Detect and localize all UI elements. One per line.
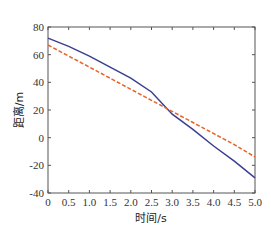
- x-tick-label: 2.5: [145, 196, 159, 208]
- x-axis-ticks: 00.51.01.52.02.53.03.54.04.55.0: [45, 27, 262, 208]
- series-solid-line: [48, 38, 255, 178]
- y-axis-label: 距离/m: [12, 92, 26, 128]
- x-tick-label: 0.5: [62, 196, 76, 208]
- y-tick-label: -20: [29, 159, 44, 171]
- x-axis-label: 时间/s: [135, 212, 167, 225]
- y-tick-label: 40: [33, 76, 45, 88]
- x-tick-label: 5.0: [248, 196, 262, 208]
- y-tick-label: 20: [33, 104, 45, 116]
- x-tick-label: 2.0: [124, 196, 138, 208]
- line-chart: 00.51.01.52.02.53.03.54.04.55.0 80604020…: [0, 0, 271, 229]
- x-tick-label: 1.5: [103, 196, 117, 208]
- x-tick-label: 1.0: [83, 196, 97, 208]
- y-axis-ticks: 806040200-20-40: [29, 21, 255, 199]
- y-tick-label: 0: [39, 132, 45, 144]
- series-layer: [48, 38, 255, 178]
- x-tick-label: 3.0: [165, 196, 179, 208]
- x-tick-label: 4.0: [207, 196, 221, 208]
- y-tick-label: 60: [33, 49, 45, 61]
- x-tick-label: 0: [45, 196, 51, 208]
- y-tick-label: 80: [33, 21, 45, 33]
- x-tick-label: 4.5: [227, 196, 241, 208]
- y-tick-label: -40: [29, 187, 44, 199]
- x-tick-label: 3.5: [186, 196, 200, 208]
- series-dashed-line: [48, 45, 255, 157]
